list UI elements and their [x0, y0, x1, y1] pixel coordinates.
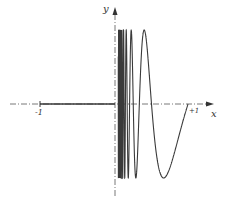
function-plot [0, 0, 228, 203]
y-axis-label: y [103, 4, 109, 14]
x-axis-label: x [211, 109, 217, 119]
tick-label-plus-one: +1 [189, 108, 199, 115]
y-axis-arrow-icon [113, 7, 118, 15]
tick-label-minus-one: -1 [35, 109, 43, 117]
x-axis-arrow-icon [206, 102, 214, 107]
